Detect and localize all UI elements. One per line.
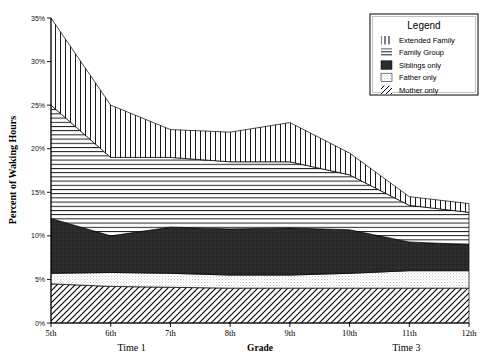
x-axis-title: Grade bbox=[247, 343, 273, 353]
y-tick-label: 35% bbox=[31, 15, 45, 22]
legend[interactable]: Legend Extended FamilyFamily GroupSiblin… bbox=[370, 14, 478, 95]
x-tick-label-9th: 9th bbox=[284, 328, 296, 338]
solid-dark-icon bbox=[381, 61, 392, 70]
area-series-mother-only bbox=[51, 284, 469, 323]
y-axis-ticks: 0%5%10%15%20%25%30%35% bbox=[31, 15, 51, 327]
vertical-lines-icon bbox=[381, 36, 392, 45]
x-tick-label-10th: 10th bbox=[342, 328, 358, 338]
legend-label-mother-only: Mother only bbox=[399, 86, 438, 95]
x-tick-label-12th: 12th bbox=[461, 328, 477, 338]
x-tick-label-11th: 11th bbox=[402, 328, 418, 338]
x-axis-ticks: 5th6th7th8th9th10th11th12th bbox=[46, 323, 478, 338]
annotation-time-1: Time 1 bbox=[117, 342, 145, 353]
y-tick-label: 10% bbox=[31, 232, 45, 239]
y-tick-label: 5% bbox=[35, 276, 45, 283]
y-tick-label: 25% bbox=[31, 102, 45, 109]
y-tick-label: 0% bbox=[35, 320, 45, 327]
y-tick-label: 15% bbox=[31, 189, 45, 196]
legend-label-siblings-only: Siblings only bbox=[399, 61, 441, 70]
legend-label-father-only: Father only bbox=[399, 73, 437, 82]
legend-title: Legend bbox=[407, 20, 440, 31]
chart-screenshot: 0%5%10%15%20%25%30%35% 5th6th7th8th9th10… bbox=[0, 0, 485, 360]
diagonal-lines-icon bbox=[381, 86, 392, 95]
x-tick-label-5th: 5th bbox=[46, 328, 58, 338]
x-tick-label-6th: 6th bbox=[105, 328, 117, 338]
legend-label-extended-family: Extended Family bbox=[399, 36, 455, 45]
horizontal-lines-icon bbox=[381, 48, 392, 57]
light-stipple-icon bbox=[381, 73, 392, 82]
stacked-area-chart: 0%5%10%15%20%25%30%35% 5th6th7th8th9th10… bbox=[0, 0, 485, 360]
legend-label-family-group: Family Group bbox=[399, 48, 444, 57]
y-tick-label: 20% bbox=[31, 145, 45, 152]
annotation-time-3: Time 3 bbox=[392, 342, 420, 353]
y-tick-label: 30% bbox=[31, 58, 45, 65]
y-axis-title: Percent of Waking Hours bbox=[7, 116, 18, 224]
x-tick-label-7th: 7th bbox=[165, 328, 177, 338]
x-tick-label-8th: 8th bbox=[225, 328, 237, 338]
